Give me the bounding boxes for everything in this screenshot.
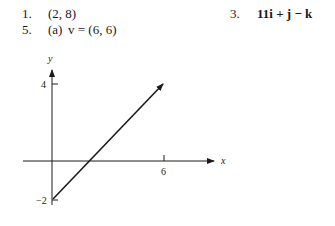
vector-arrow (53, 84, 163, 199)
x-axis-label: x (220, 155, 226, 166)
y-axis-label: y (47, 53, 53, 64)
x-tick-6: 6 (161, 166, 166, 177)
y-tick-4: 4 (41, 79, 46, 90)
vector-plot: 4 −2 6 y x (0, 0, 335, 226)
y-tick-neg2: −2 (36, 195, 47, 206)
